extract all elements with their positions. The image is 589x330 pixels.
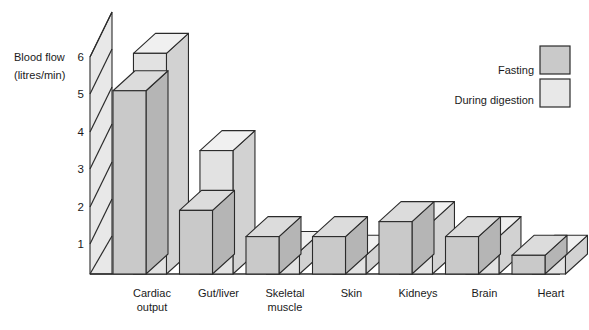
y-axis-tick-labels: 6 5 4 3 2 1 [78,51,85,250]
bar-cardiac-output-fasting[interactable] [113,71,168,274]
legend-label-during-digestion: During digestion [455,94,535,106]
chart-canvas: 6 5 4 3 2 1 Blood flow (litres/min) Card… [0,0,589,330]
y-tick-6: 6 [78,51,84,63]
y-tick-3: 3 [78,163,84,175]
bar-skin-fasting-front-face [313,237,346,274]
y-tick-1: 1 [78,238,84,250]
y-axis-wall [90,12,112,274]
bar-gut-liver-fasting-front-face [180,210,213,274]
legend-item-during-digestion[interactable]: During digestion [455,79,571,107]
x-label-brain: Brain [472,287,498,299]
y-axis-title-line1: Blood flow [14,51,65,63]
y-tick-4: 4 [78,126,85,138]
x-label-cardiac-output-line2: output [137,301,168,313]
bar-brain-fasting-front-face [446,237,479,274]
bar-heart-fasting-front-face [512,255,545,274]
y-axis-title: Blood flow (litres/min) [14,51,65,81]
x-label-kidneys: Kidneys [398,287,438,299]
x-label-skin: Skin [341,287,362,299]
bar-kidneys-fasting-front-face [379,222,412,274]
legend-swatch-during-digestion [540,79,570,107]
bar-cardiac-output-fasting-side-face [146,71,168,274]
x-label-skeletal-muscle-line1: Skeletal [265,287,304,299]
y-axis-title-line2: (litres/min) [14,69,65,81]
legend-swatch-fasting [540,46,570,74]
x-label-heart: Heart [538,287,565,299]
bar-cardiac-output-fasting-front-face [113,91,146,274]
legend: Fasting During digestion [455,46,571,107]
x-axis-category-labels: CardiacoutputGut/liverSkeletalmuscleSkin… [133,287,564,313]
x-label-cardiac-output-line1: Cardiac [133,287,171,299]
bar-skeletal-muscle-fasting-front-face [246,237,279,274]
y-tick-5: 5 [78,88,84,100]
legend-label-fasting: Fasting [498,64,534,76]
blood-flow-bar-chart: 6 5 4 3 2 1 Blood flow (litres/min) Card… [0,0,589,330]
legend-item-fasting[interactable]: Fasting [498,46,570,76]
y-tick-2: 2 [78,201,84,213]
bar-gut-liver-fasting[interactable] [180,190,235,274]
x-label-gut-liver: Gut/liver [198,287,239,299]
x-label-skeletal-muscle-line2: muscle [268,301,303,313]
